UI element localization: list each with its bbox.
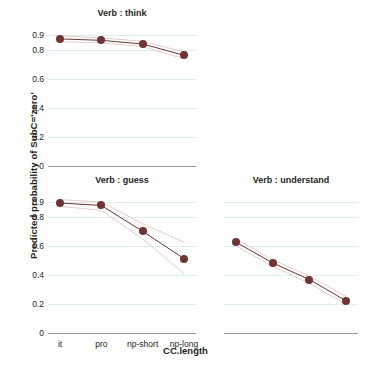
y-axis-tick-label: 0.8 — [32, 213, 44, 222]
fitted-line — [236, 242, 346, 301]
y-axis-tick-label: 0 — [39, 329, 44, 338]
x-axis-tick-label: it — [58, 340, 62, 349]
y-axis-tick-label: 0.2 — [32, 133, 44, 142]
plot-area-understand — [224, 195, 358, 333]
panel-understand: Verb : understand — [224, 175, 358, 335]
series-lines — [224, 195, 358, 333]
series-lines — [48, 195, 196, 333]
data-point-marker — [139, 40, 147, 48]
ci-upper-line — [60, 36, 184, 52]
data-point-marker — [305, 276, 313, 284]
fitted-line — [60, 203, 184, 259]
panel-title-guess: Verb : guess — [48, 175, 196, 185]
y-axis-tick-label: 0.4 — [32, 104, 44, 113]
plot-area-think: 00.20.40.60.80.9 — [48, 28, 196, 166]
x-axis-tick-label: pro — [95, 340, 107, 349]
ci-lower-line — [236, 246, 346, 305]
ci-upper-line — [236, 239, 346, 297]
series-lines — [48, 28, 196, 166]
x-axis-tick-label: np-long — [170, 340, 198, 349]
y-axis-tick-label: 0.6 — [32, 242, 44, 251]
data-point-marker — [180, 255, 188, 263]
data-point-marker — [56, 199, 64, 207]
panel-title-understand: Verb : understand — [224, 175, 358, 185]
data-point-marker — [342, 297, 350, 305]
y-axis-tick-label: 0.6 — [32, 75, 44, 84]
y-axis-tick-label: 0.8 — [32, 46, 44, 55]
x-axis-line — [224, 333, 358, 334]
x-axis-line — [48, 166, 196, 167]
y-axis-tick-label: 0.2 — [32, 300, 44, 309]
panel-guess: Verb : guess 00.20.40.60.80.9itpronp-sho… — [48, 175, 196, 335]
y-axis-title: Predicted probability of SubC='zero' — [28, 51, 39, 301]
data-point-marker — [269, 259, 277, 267]
panel-title-think: Verb : think — [48, 8, 196, 18]
data-point-marker — [56, 35, 64, 43]
x-axis-tick-label: np-short — [127, 340, 158, 349]
y-axis-tick-label: 0.9 — [32, 31, 44, 40]
panel-think: Verb : think 00.20.40.60.80.9 — [48, 8, 196, 168]
plot-area-guess: 00.20.40.60.80.9itpronp-shortnp-long — [48, 195, 196, 333]
data-point-marker — [139, 227, 147, 235]
y-axis-tick-label: 0.9 — [32, 198, 44, 207]
x-axis-line — [48, 333, 196, 334]
y-axis-tick-label: 0.4 — [32, 271, 44, 280]
figure: Predicted probability of SubC='zero' CC.… — [0, 0, 371, 370]
y-axis-tick-label: 0 — [39, 162, 44, 171]
ci-upper-line — [60, 200, 184, 243]
ci-lower-line — [60, 206, 184, 273]
